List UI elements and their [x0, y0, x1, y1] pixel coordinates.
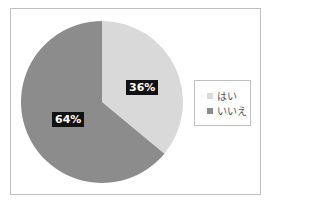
data-label-no: 64%: [52, 112, 84, 127]
legend-swatch-yes: [207, 93, 213, 99]
legend-label-no: いいえ: [217, 103, 247, 118]
legend-label-yes: はい: [217, 88, 237, 103]
legend-item-yes: はい: [207, 88, 250, 103]
data-label-yes: 36%: [126, 80, 158, 95]
legend-swatch-no: [207, 108, 213, 114]
chart-legend: はい いいえ: [194, 80, 251, 126]
legend-item-no: いいえ: [207, 103, 250, 118]
